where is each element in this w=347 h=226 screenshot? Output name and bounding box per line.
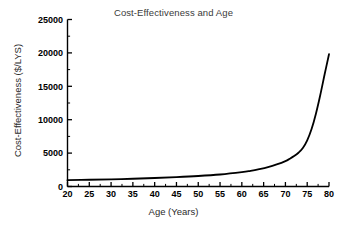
x-axis-tick-labels: 20253035404550556065707580 [62,189,334,199]
svg-text:10000: 10000 [38,115,63,125]
svg-text:5000: 5000 [43,148,63,158]
svg-text:20000: 20000 [38,48,63,58]
svg-text:20: 20 [62,189,72,199]
svg-text:40: 40 [150,189,160,199]
svg-text:15000: 15000 [38,82,63,92]
y-axis-tick-labels: 0500010000150002000025000 [38,15,63,192]
svg-text:70: 70 [280,189,290,199]
plot-area: 0500010000150002000025000 20253035404550… [0,0,347,226]
svg-text:60: 60 [237,189,247,199]
svg-text:35: 35 [128,189,138,199]
svg-text:75: 75 [302,189,312,199]
svg-text:45: 45 [171,189,181,199]
svg-text:25000: 25000 [38,15,63,25]
svg-text:55: 55 [215,189,225,199]
svg-text:50: 50 [193,189,203,199]
svg-text:65: 65 [259,189,269,199]
svg-text:80: 80 [324,189,334,199]
svg-text:25: 25 [84,189,94,199]
data-series-line [68,54,330,180]
chart-figure: Cost-Effectiveness and Age Cost-Effectiv… [0,0,347,226]
svg-text:30: 30 [106,189,116,199]
